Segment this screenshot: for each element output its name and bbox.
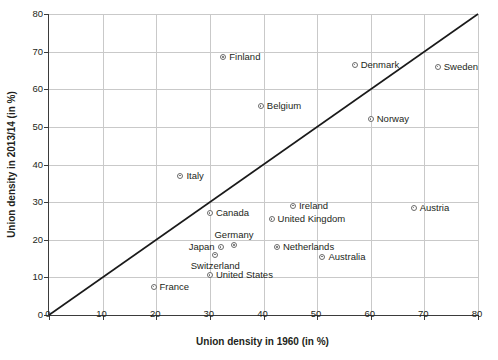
y-axis-tick xyxy=(44,89,49,90)
data-point-center xyxy=(413,207,415,209)
data-point-center xyxy=(260,105,262,107)
data-point-marker[interactable] xyxy=(212,252,218,258)
data-point-center xyxy=(209,212,211,214)
data-point-center xyxy=(220,246,222,248)
data-point-marker[interactable] xyxy=(290,203,296,209)
y-axis-title: Union density in 2013/14 (in %) xyxy=(6,14,20,315)
x-axis-tick-label: 60 xyxy=(355,308,385,319)
data-point-label: United Kingdom xyxy=(278,214,346,224)
data-point-label: Netherlands xyxy=(283,243,334,253)
data-point-center xyxy=(437,66,439,68)
x-axis-tick-label: 10 xyxy=(87,308,117,319)
data-point-center xyxy=(209,274,211,276)
y-axis-tick xyxy=(44,14,49,15)
y-axis-tick-label: 60 xyxy=(32,83,43,94)
data-point-center xyxy=(354,64,356,66)
data-point-label: Japan xyxy=(189,243,215,253)
x-axis-title: Union density in 1960 (in %) xyxy=(48,336,477,347)
x-axis-tick-label: 70 xyxy=(408,308,438,319)
data-point-label: Sweden xyxy=(444,62,478,72)
data-point-marker[interactable] xyxy=(435,64,441,70)
gridline-vertical xyxy=(478,14,479,315)
data-point-marker[interactable] xyxy=(218,244,224,250)
x-axis-tick-label: 50 xyxy=(301,308,331,319)
data-point-center xyxy=(292,205,294,207)
data-point-label: Canada xyxy=(216,209,249,219)
data-point-center xyxy=(179,175,181,177)
data-point-marker[interactable] xyxy=(352,62,358,68)
y-axis-tick xyxy=(44,202,49,203)
plot-area: FinlandDenmarkSwedenBelgiumNorwayItalyIr… xyxy=(48,14,478,316)
y-axis-tick xyxy=(44,52,49,53)
y-axis-tick-label: 30 xyxy=(32,196,43,207)
data-point-center xyxy=(214,254,216,256)
x-axis-tick-label: 20 xyxy=(140,308,170,319)
data-point-marker[interactable] xyxy=(411,205,417,211)
x-axis-tick-label: 80 xyxy=(462,308,492,319)
data-point-label: France xyxy=(160,282,190,292)
x-axis-tick-label: 30 xyxy=(194,308,224,319)
data-point-center xyxy=(271,218,273,220)
scatter-chart: FinlandDenmarkSwedenBelgiumNorwayItalyIr… xyxy=(0,0,498,360)
y-axis-tick xyxy=(44,277,49,278)
x-axis-tick-label: 0 xyxy=(33,308,63,319)
data-point-label: Denmark xyxy=(361,60,400,70)
data-point-label: Ireland xyxy=(299,201,328,211)
data-point-label: Australia xyxy=(328,252,365,262)
data-point-center xyxy=(370,118,372,120)
data-point-center xyxy=(276,246,278,248)
x-axis-tick-label: 40 xyxy=(248,308,278,319)
data-point-label: Belgium xyxy=(267,101,301,111)
data-point-label: Norway xyxy=(377,115,409,125)
data-point-center xyxy=(321,256,323,258)
data-point-label: Finland xyxy=(229,53,260,63)
y-axis-tick-label: 70 xyxy=(32,46,43,57)
y-axis-tick-label: 40 xyxy=(32,159,43,170)
data-point-center xyxy=(153,286,155,288)
data-point-marker[interactable] xyxy=(258,103,264,109)
y-axis-tick-label: 50 xyxy=(32,121,43,132)
y-axis-tick-label: 80 xyxy=(32,8,43,19)
data-point-label: Italy xyxy=(186,171,203,181)
y-axis-tick xyxy=(44,165,49,166)
y-axis-tick-label: 10 xyxy=(32,271,43,282)
y-axis-tick xyxy=(44,127,49,128)
data-point-label: Austria xyxy=(420,203,450,213)
data-point-marker[interactable] xyxy=(269,216,275,222)
y-axis-tick-label: 20 xyxy=(32,234,43,245)
data-point-center xyxy=(233,244,235,246)
data-point-center xyxy=(222,56,224,58)
data-point-label: United States xyxy=(216,271,273,281)
data-point-marker[interactable] xyxy=(151,284,157,290)
data-point-label: Germany xyxy=(214,230,253,240)
y-axis-tick xyxy=(44,240,49,241)
